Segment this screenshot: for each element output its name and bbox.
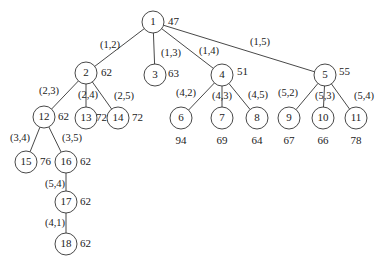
edge-label: (5,3)	[315, 90, 336, 102]
tree-node-10: 10	[312, 107, 334, 129]
edge-label: (1,2)	[100, 39, 121, 51]
node-value: 63	[168, 67, 180, 79]
node-id: 2	[83, 66, 89, 78]
node-id: 16	[61, 155, 73, 167]
node-id: 6	[178, 111, 184, 123]
node-value: 78	[351, 134, 363, 146]
node-id: 18	[61, 237, 73, 249]
tree-node-9: 9	[278, 107, 300, 129]
edge-label: (2,5)	[114, 90, 135, 102]
node-value: 62	[101, 66, 112, 78]
node-value: 67	[284, 134, 296, 146]
node-id: 13	[81, 111, 93, 123]
node-value: 64	[252, 134, 264, 146]
tree-node-18: 18	[55, 233, 77, 255]
node-id: 3	[152, 68, 158, 80]
node-value: 66	[318, 134, 330, 146]
edge-label: (3,5)	[62, 132, 83, 144]
edge-label: (3,4)	[10, 132, 31, 144]
edge-12-15	[30, 127, 40, 152]
node-value: 47	[168, 15, 180, 27]
node-value: 62	[80, 195, 91, 207]
tree-node-3: 3	[144, 64, 166, 86]
node-value: 51	[237, 65, 248, 77]
tree-node-8: 8	[246, 107, 268, 129]
node-id: 12	[39, 110, 50, 122]
edge-label: (1,5)	[250, 36, 271, 48]
edge-1-3	[153, 33, 154, 64]
node-value: 69	[217, 134, 229, 146]
tree-node-6: 6	[170, 107, 192, 129]
node-value: 72	[132, 111, 143, 123]
node-id: 4	[219, 68, 225, 80]
tree-node-12: 12	[33, 106, 55, 128]
edge-12-16	[49, 127, 61, 152]
node-value: 72	[96, 111, 107, 123]
tree-node-15: 15	[15, 151, 37, 173]
node-value: 94	[176, 134, 188, 146]
node-value: 76	[40, 155, 52, 167]
tree-node-16: 16	[55, 151, 77, 173]
tree-node-13: 13	[75, 107, 97, 129]
edge-label: (4,5)	[248, 89, 269, 101]
tree-node-5: 5	[314, 64, 336, 86]
edge-label: (2,3)	[39, 85, 60, 97]
tree-node-11: 11	[345, 107, 367, 129]
edge-label: (5,4)	[354, 90, 375, 102]
node-id: 10	[318, 111, 330, 123]
tree-node-7: 7	[211, 107, 233, 129]
edge-label: (5,2)	[278, 87, 299, 99]
node-id: 5	[322, 68, 328, 80]
tree-node-17: 17	[55, 191, 77, 213]
node-value: 62	[80, 237, 91, 249]
edge-label: (1,4)	[199, 45, 220, 57]
edge-label: (4,2)	[176, 87, 197, 99]
node-id: 17	[61, 195, 73, 207]
tree-node-1: 1	[142, 11, 164, 33]
node-id: 14	[113, 111, 125, 123]
edges-layer	[30, 25, 349, 233]
node-id: 11	[351, 111, 362, 123]
tree-node-4: 4	[211, 64, 233, 86]
edge-4-8	[229, 84, 250, 110]
node-value: 55	[339, 65, 351, 77]
node-value: 62	[80, 155, 91, 167]
edge-label: (4,3)	[212, 90, 233, 102]
node-value: 62	[58, 110, 69, 122]
edge-label: (2,4)	[78, 89, 99, 101]
edge-label: (4,1)	[45, 217, 66, 229]
tree-node-14: 14	[107, 107, 129, 129]
node-id: 15	[21, 155, 33, 167]
tree-diagram: (1,2)(1,3)(1,4)(1,5)(2,3)(2,4)(2,5)(3,4)…	[0, 0, 379, 263]
node-id: 1	[150, 15, 156, 27]
edge-label: (5,4)	[45, 178, 66, 190]
edge-label: (1,3)	[161, 47, 182, 59]
node-id: 7	[219, 111, 225, 123]
node-id: 9	[286, 111, 292, 123]
node-id: 8	[254, 111, 260, 123]
tree-node-2: 2	[75, 62, 97, 84]
